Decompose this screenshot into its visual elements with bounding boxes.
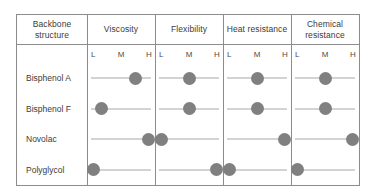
marker-polyglycol-chemical-resistance — [291, 163, 304, 176]
column-header-viscosity: Viscosity — [87, 15, 155, 44]
marker-polyglycol-heat-resistance — [223, 163, 236, 176]
cell-novolac-heat-resistance — [223, 124, 291, 155]
marker-polyglycol-viscosity — [87, 163, 100, 176]
cell-bisphenol-f-viscosity — [87, 94, 155, 125]
cell-bisphenol-f-chemical-resistance — [291, 94, 359, 125]
property-comparison-table: Backbone structure Viscosity Flexibility… — [16, 14, 360, 186]
scale-ticks-viscosity: L M H — [87, 44, 155, 63]
column-header-heat-resistance-label: Heat resistance — [227, 24, 288, 35]
marker-bisphenol-a-flexibility — [183, 72, 196, 85]
cell-polyglycol-chemical-resistance — [291, 155, 359, 186]
marker-novolac-heat-resistance — [278, 133, 291, 146]
cell-bisphenol-a-heat-resistance — [223, 63, 291, 94]
row-label-bisphenol-a: Bisphenol A — [17, 63, 87, 94]
tick-label-viscosity-medium: M — [118, 49, 125, 58]
cell-novolac-flexibility — [155, 124, 223, 155]
marker-bisphenol-f-flexibility — [183, 102, 196, 115]
marker-polyglycol-flexibility — [210, 163, 223, 176]
axis-line — [295, 169, 355, 170]
cell-polyglycol-heat-resistance — [223, 155, 291, 186]
cell-bisphenol-a-flexibility — [155, 63, 223, 94]
marker-bisphenol-f-chemical-resistance — [319, 102, 332, 115]
tick-label-flexibility-high: H — [214, 49, 220, 58]
marker-bisphenol-a-heat-resistance — [251, 72, 264, 85]
marker-bisphenol-a-chemical-resistance — [319, 72, 332, 85]
tick-label-flexibility-low: L — [159, 49, 163, 58]
tick-row-blank-cell — [17, 44, 87, 63]
column-header-chemical-resistance: Chemical resistance — [291, 15, 359, 44]
column-header-chemical-resistance-line2: resistance — [305, 30, 345, 41]
marker-bisphenol-f-heat-resistance — [251, 102, 264, 115]
marker-bisphenol-f-viscosity — [95, 102, 108, 115]
cell-bisphenol-f-heat-resistance — [223, 94, 291, 125]
column-header-viscosity-label: Viscosity — [104, 24, 138, 35]
axis-line — [227, 169, 287, 170]
tick-label-chemical-resistance-low: L — [295, 49, 299, 58]
column-header-flexibility: Flexibility — [155, 15, 223, 44]
column-header-backbone-structure-line2: structure — [33, 30, 72, 41]
cell-bisphenol-f-flexibility — [155, 94, 223, 125]
row-label-novolac: Novolac — [17, 124, 87, 155]
axis-line — [91, 169, 151, 170]
cell-novolac-chemical-resistance — [291, 124, 359, 155]
tick-label-flexibility-medium: M — [186, 49, 193, 58]
column-header-chemical-resistance-line1: Chemical — [305, 19, 345, 30]
row-label-polyglycol: Polyglycol — [17, 155, 87, 186]
scale-ticks-heat-resistance: L M H — [223, 44, 291, 63]
tick-label-heat-resistance-medium: M — [254, 49, 261, 58]
marker-novolac-viscosity — [142, 133, 155, 146]
cell-polyglycol-flexibility — [155, 155, 223, 186]
column-header-backbone-structure-line1: Backbone — [33, 19, 72, 30]
marker-novolac-chemical-resistance — [346, 133, 359, 146]
tick-label-chemical-resistance-high: H — [350, 49, 356, 58]
tick-label-chemical-resistance-medium: M — [322, 49, 329, 58]
cell-bisphenol-a-viscosity — [87, 63, 155, 94]
table-grid: Backbone structure Viscosity Flexibility… — [17, 15, 359, 185]
row-label-bisphenol-f: Bisphenol F — [17, 94, 87, 125]
scale-ticks-chemical-resistance: L M H — [291, 44, 359, 63]
column-header-heat-resistance: Heat resistance — [223, 15, 291, 44]
tick-label-heat-resistance-low: L — [227, 49, 231, 58]
marker-bisphenol-a-viscosity — [129, 72, 142, 85]
cell-bisphenol-a-chemical-resistance — [291, 63, 359, 94]
tick-label-viscosity-high: H — [146, 49, 152, 58]
marker-novolac-flexibility — [155, 133, 168, 146]
tick-label-viscosity-low: L — [91, 49, 95, 58]
scale-ticks-flexibility: L M H — [155, 44, 223, 63]
cell-polyglycol-viscosity — [87, 155, 155, 186]
cell-novolac-viscosity — [87, 124, 155, 155]
column-header-backbone-structure: Backbone structure — [17, 15, 87, 44]
tick-label-heat-resistance-high: H — [282, 49, 288, 58]
column-header-flexibility-label: Flexibility — [171, 24, 207, 35]
axis-line — [159, 139, 219, 140]
